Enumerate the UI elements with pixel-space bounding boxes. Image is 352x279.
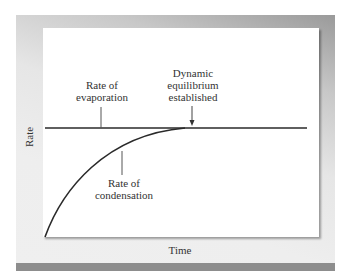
evaporation-label-line1: Rate of: [66, 79, 138, 91]
evaporation-label: Rate of evaporation: [66, 79, 138, 103]
condensation-label-line2: condensation: [86, 189, 162, 201]
condensation-label-line1: Rate of: [86, 177, 162, 189]
evaporation-label-line2: evaporation: [66, 91, 138, 103]
equilibrium-label-line1: Dynamic: [157, 67, 229, 79]
y-axis-label: Rate: [22, 121, 36, 153]
x-axis-label: Time: [150, 243, 210, 257]
plot-area: [0, 0, 352, 279]
equilibrium-arrow-icon: [190, 120, 195, 126]
equilibrium-label-line2: equilibrium: [157, 79, 229, 91]
equilibrium-label: Dynamic equilibrium established: [157, 67, 229, 103]
equilibrium-label-line3: established: [157, 91, 229, 103]
condensation-label: Rate of condensation: [86, 177, 162, 201]
